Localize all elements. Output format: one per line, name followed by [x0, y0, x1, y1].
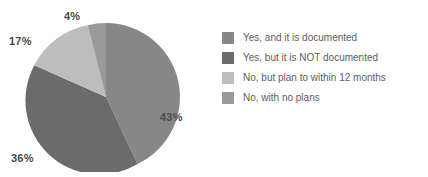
legend-item-label: No, but plan to within 12 months [243, 72, 386, 84]
legend-swatch-icon [222, 52, 234, 64]
legend-item-label: No, with no plans [243, 92, 320, 104]
pie-value-label-36: 36% [11, 152, 34, 164]
legend-item-yes-not-documented: Yes, but it is NOT documented [222, 51, 386, 64]
pie-value-label-43: 43% [160, 111, 183, 123]
pie-value-label-4: 4% [64, 10, 80, 22]
legend-item-no-plan-12-months: No, but plan to within 12 months [222, 71, 386, 84]
legend-panel: Yes, and it is documented Yes, but it is… [214, 0, 428, 177]
legend-swatch-icon [222, 92, 234, 104]
legend-item-yes-documented: Yes, and it is documented [222, 31, 386, 44]
pie-chart-panel: 43% 36% 17% 4% [0, 0, 214, 177]
legend-item-no-plans: No, with no plans [222, 91, 386, 104]
chart-container: 43% 36% 17% 4% Yes, and it is documented… [0, 0, 428, 177]
legend-item-label: Yes, but it is NOT documented [243, 52, 378, 64]
legend-swatch-icon [222, 72, 234, 84]
legend: Yes, and it is documented Yes, but it is… [222, 31, 386, 104]
pie-chart-graphic [13, 22, 199, 172]
legend-item-label: Yes, and it is documented [243, 32, 357, 44]
legend-swatch-icon [222, 32, 234, 44]
pie-value-label-17: 17% [9, 35, 32, 47]
